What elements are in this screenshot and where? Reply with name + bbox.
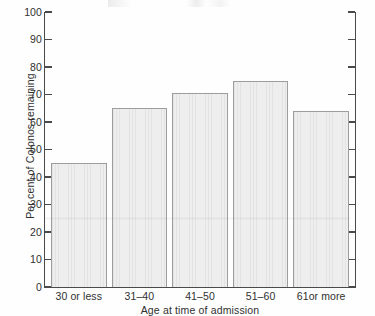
bars-group: [0, 0, 375, 316]
bar-chart-figure: 1009080706050403020100 30 or less31–4041…: [0, 0, 375, 316]
bar: [172, 93, 228, 287]
bar: [51, 163, 107, 287]
bar: [293, 111, 349, 287]
bar: [112, 108, 168, 287]
bar: [233, 81, 289, 287]
x-axis-title: Age at time of admission: [44, 304, 356, 316]
y-axis-title: Per cent of Colonos remaining: [24, 36, 36, 256]
x-axis-tick-label: 61or more: [279, 291, 363, 303]
